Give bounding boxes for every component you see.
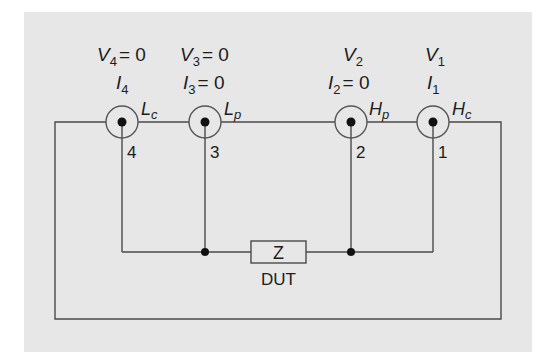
junction-dot-left [201, 248, 209, 256]
terminal-pin-icon [201, 118, 210, 127]
terminal-2-name: Hp [369, 99, 389, 122]
terminal-4-number: 4 [127, 143, 136, 162]
terminal-2-voltage: V2 [343, 44, 363, 69]
terminal-4-current: I4 [116, 72, 129, 97]
dut-label: DUT [261, 270, 296, 289]
terminal-3-number: 3 [210, 143, 219, 162]
terminal-pin-icon [347, 118, 356, 127]
junction-dot-right [347, 248, 355, 256]
terminal-2-number: 2 [356, 143, 365, 162]
terminal-2-current: I2= 0 [328, 72, 369, 97]
terminal-pin-icon [118, 118, 127, 127]
terminal-1-number: 1 [438, 143, 447, 162]
dut-symbol: Z [273, 243, 284, 263]
terminal-3-current: I3= 0 [183, 72, 224, 97]
terminal-pin-icon [429, 118, 438, 127]
terminal-1-current: I1 [427, 72, 440, 97]
terminal-1-name: Hc [452, 99, 472, 122]
circuit-diagram: V4= 0 I4 Lc 4 V3= 0 I3= 0 Lp 3 V2 I2= 0 … [0, 0, 550, 358]
terminal-3-name: Lp [224, 99, 241, 122]
terminal-1-voltage: V1 [425, 44, 445, 69]
terminal-4-name: Lc [141, 99, 158, 122]
terminal-3-voltage: V3= 0 [180, 44, 229, 69]
terminal-4-voltage: V4= 0 [97, 44, 146, 69]
